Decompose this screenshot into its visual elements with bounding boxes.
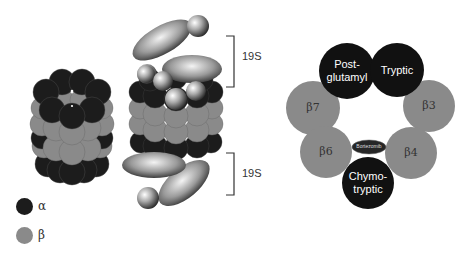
label-bortezomib: Bortezomib — [352, 143, 386, 149]
label-post-glutamyl: Post- glutamyl — [319, 58, 375, 84]
cap-top-label: 19S — [242, 50, 262, 62]
label-beta7: β7 — [286, 101, 340, 114]
cap-bottom-label: 19S — [242, 167, 262, 179]
legend-beta-label: β — [38, 228, 45, 242]
label-tryptic: Tryptic — [370, 64, 424, 76]
label-chymotryptic: Chymo- tryptic — [340, 170, 396, 196]
label-beta6: β6 — [300, 145, 352, 158]
label-beta3: β3 — [403, 99, 455, 112]
legend-beta-swatch — [16, 227, 33, 244]
legend-alpha-swatch — [16, 198, 33, 215]
legend-alpha-label: α — [38, 199, 46, 213]
label-beta4: β4 — [385, 146, 437, 159]
